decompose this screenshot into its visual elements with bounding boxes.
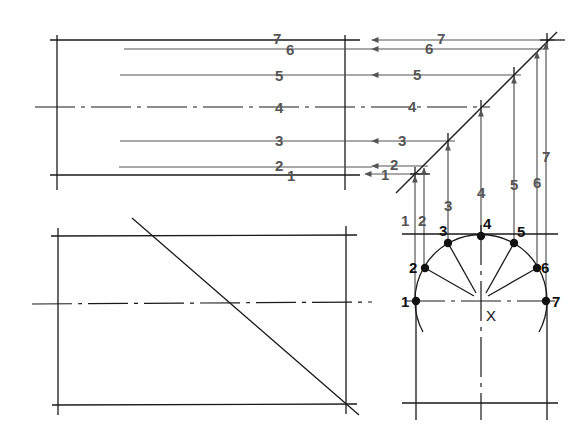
- point-label-4: 4: [483, 215, 492, 232]
- center-label-x: X: [486, 307, 496, 324]
- arrow-label-4: 4: [408, 98, 417, 115]
- section-top-line: [51, 235, 357, 236]
- point-7: [542, 297, 550, 305]
- section-bottom-line: [52, 404, 357, 405]
- cutting-plane-line: [132, 218, 359, 415]
- arrow-label-7: 7: [437, 30, 445, 47]
- vlabel-5: 5: [510, 176, 518, 193]
- point-label-1: 1: [401, 293, 409, 310]
- vlabel-6: 6: [533, 174, 541, 191]
- arrow-label-3: 3: [398, 132, 406, 149]
- section-view: [32, 218, 372, 415]
- label-4: 4: [275, 99, 284, 116]
- point-label-7: 7: [552, 293, 560, 310]
- point-label-3: 3: [439, 222, 447, 239]
- arrow-label-5: 5: [413, 66, 421, 83]
- point-label-2: 2: [409, 259, 417, 276]
- point-5: [510, 239, 518, 247]
- arrow-label-6: 6: [425, 40, 433, 57]
- arrow-label-1: 1: [381, 166, 389, 183]
- top-view: [35, 35, 565, 190]
- label-7: 7: [273, 30, 281, 47]
- vlabel-7: 7: [542, 148, 550, 165]
- point-4: [477, 232, 485, 240]
- orthographic-projection-diagram: 7 6 5 4 3 2 1 7 6 5 4 3 2 1 1 2 3: [0, 0, 579, 443]
- label-2: 2: [275, 157, 283, 174]
- point-label-6: 6: [541, 259, 549, 276]
- vlabel-1: 1: [401, 212, 409, 229]
- vlabel-4: 4: [477, 184, 486, 201]
- point-3: [444, 239, 452, 247]
- arrow-label-2: 2: [390, 156, 398, 173]
- point-label-5: 5: [517, 223, 525, 240]
- point-1: [412, 297, 420, 305]
- label-1: 1: [287, 167, 295, 184]
- label-6: 6: [286, 41, 294, 58]
- section-centerline: [32, 302, 372, 304]
- point-6: [533, 264, 541, 272]
- vlabel-3: 3: [444, 197, 452, 214]
- label-5: 5: [275, 67, 283, 84]
- vlabel-2: 2: [418, 212, 426, 229]
- label-3: 3: [275, 132, 283, 149]
- miter-line: [396, 32, 557, 193]
- point-2: [421, 264, 429, 272]
